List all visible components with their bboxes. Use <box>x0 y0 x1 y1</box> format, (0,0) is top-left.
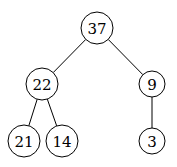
tree-nodes: 3722921143 <box>8 12 165 157</box>
edge-22-21 <box>29 99 37 125</box>
node-label: 3 <box>147 133 157 151</box>
node-label: 14 <box>52 133 71 151</box>
tree-node-37: 37 <box>81 12 113 44</box>
tree-node-14: 14 <box>46 125 78 157</box>
edge-37-9 <box>108 39 143 74</box>
node-label: 37 <box>87 20 106 38</box>
edge-22-14 <box>47 99 56 126</box>
tree-diagram: 3722921143 <box>0 0 177 167</box>
node-label: 22 <box>32 76 51 94</box>
tree-node-22: 22 <box>26 68 58 100</box>
node-label: 9 <box>147 76 157 94</box>
tree-node-3: 3 <box>139 128 165 154</box>
node-label: 21 <box>14 133 33 151</box>
tree-node-9: 9 <box>139 71 165 97</box>
tree-node-21: 21 <box>8 125 40 157</box>
edge-37-22 <box>53 39 86 72</box>
